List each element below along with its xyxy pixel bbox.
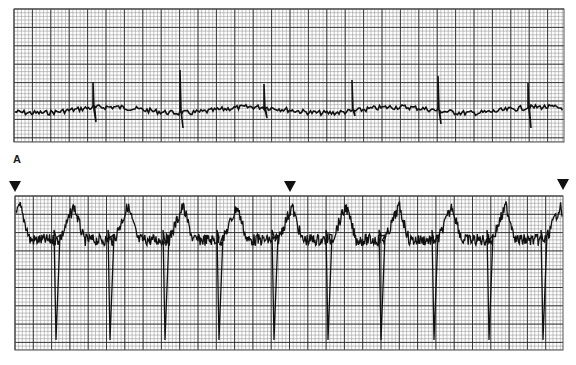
ecg-waveform-bottom <box>16 201 562 340</box>
ecg-trace-bottom <box>0 0 576 365</box>
